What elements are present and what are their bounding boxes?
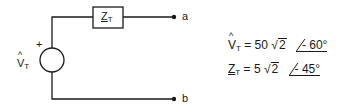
sqrt-icon: √ [271, 38, 278, 52]
eq1-equals: = [244, 38, 251, 52]
impedance-label: ZT [101, 11, 113, 24]
eq1-magnitude: 50 [255, 38, 268, 52]
eq2-subscript: T [235, 68, 240, 77]
impedance-symbol: Z [101, 10, 108, 22]
source-label: VT [17, 58, 29, 71]
eq2-radicand: 2 [271, 62, 280, 75]
eq1-symbol: V [228, 39, 236, 51]
wire-top-left [52, 17, 93, 48]
eq1-subscript: T [236, 44, 241, 53]
sqrt-icon: √ [264, 62, 271, 76]
terminal-b-dot [172, 97, 176, 101]
polarity-plus: + [36, 39, 42, 50]
source-subscript: T [24, 62, 29, 71]
equation-source-voltage: VT = 50 √2 - 60° [228, 38, 327, 53]
terminal-a-dot [172, 15, 176, 19]
circuit-drawing [0, 0, 346, 109]
impedance-subscript: T [108, 15, 113, 24]
terminal-b-label: b [182, 93, 188, 104]
wire-bottom [52, 72, 174, 99]
equation-impedance: ZT = 5 √2 - 45° [228, 62, 320, 77]
eq2-angle: - 45° [289, 63, 320, 76]
terminal-a-label: a [182, 11, 188, 22]
eq2-magnitude: 5 [254, 62, 261, 76]
source-symbol: V [17, 58, 24, 69]
eq1-angle: - 60° [296, 39, 327, 52]
voltage-source-icon [40, 48, 64, 72]
eq1-radicand: 2 [278, 38, 287, 51]
eq2-equals: = [244, 62, 251, 76]
